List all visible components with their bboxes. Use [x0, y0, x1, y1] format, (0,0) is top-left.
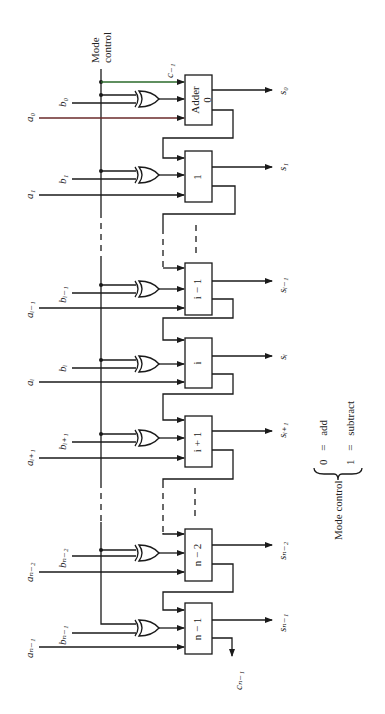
s-n-minus-1-label: sₙ₋₁ — [276, 613, 288, 632]
s-i-minus-1-label: sᵢ₋₁ — [276, 277, 288, 293]
svg-text:i − 1: i − 1 — [191, 279, 203, 299]
a0-label: a₀ — [23, 113, 35, 123]
b-i-minus-1-label: bᵢ₋₁ — [56, 286, 68, 303]
xor-gate-icon — [135, 620, 159, 636]
svg-text:i + 1: i + 1 — [191, 432, 203, 452]
stage-i-minus-1: i − 1 aᵢ₋₁ bᵢ₋₁ sᵢ₋₁ — [23, 263, 288, 340]
b-i-label: bᵢ — [56, 365, 68, 373]
svg-text:Adder: Adder — [189, 86, 201, 114]
xor-gate-icon — [135, 356, 159, 372]
svg-text:n − 1: n − 1 — [191, 618, 203, 641]
xor-gate-icon — [135, 167, 159, 183]
xor-gate-icon — [135, 545, 159, 561]
ellipsis-upper — [163, 225, 196, 268]
xor-gate-icon — [135, 91, 159, 107]
legend-title: Mode control — [332, 480, 344, 540]
a-n-minus-2-label: aₙ₋₂ — [23, 562, 35, 582]
legend-entry-add: 0 = add — [317, 419, 329, 465]
a-i-minus-1-label: aᵢ₋₁ — [23, 301, 35, 318]
svg-text:i: i — [191, 361, 203, 364]
b-n-minus-1-label: bₙ₋₁ — [56, 625, 68, 645]
b-i-plus-1-label: bᵢ₊₁ — [56, 433, 68, 450]
stage-1: 1 a₁ b₁ s₁ — [23, 151, 288, 228]
b-n-minus-2-label: bₙ₋₂ — [56, 548, 68, 568]
mode-control-label: Mode control — [89, 32, 113, 63]
legend-brace-icon — [314, 468, 362, 480]
s-i-label: sᵢ — [276, 354, 288, 360]
s-i-plus-1-label: sᵢ₊₁ — [276, 422, 288, 438]
s0-label: s₀ — [276, 87, 288, 95]
stage-n-minus-2: n − 2 aₙ₋₂ bₙ₋₂ sₙ₋₂ — [23, 529, 288, 610]
carry-out-label: cₙ₋₁ — [232, 671, 244, 690]
xor-gate-icon — [135, 281, 159, 297]
a-n-minus-1-label: aₙ₋₁ — [23, 638, 35, 658]
a1-label: a₁ — [23, 190, 35, 200]
mode-control-legend: 0 = add 1 = subtract Mode control — [314, 401, 362, 540]
mode-control-bus — [101, 69, 136, 624]
s1-label: s₁ — [276, 163, 288, 171]
stage-i-plus-1: i + 1 aᵢ₊₁ bᵢ₊₁ sᵢ₊₁ — [23, 416, 288, 482]
svg-text:n − 2: n − 2 — [191, 544, 203, 567]
ellipsis-lower — [163, 482, 195, 533]
a-i-plus-1-label: aᵢ₊₁ — [23, 449, 35, 466]
svg-text:Mode: Mode — [89, 37, 101, 63]
stage-0: Adder 0 a₀ b₀ s₀ — [23, 75, 288, 158]
xor-gate-icon — [135, 430, 159, 446]
carry-in-wire — [99, 80, 184, 84]
stage-n-minus-1: n − 1 aₙ₋₁ bₙ₋₁ sₙ₋₁ — [23, 603, 288, 658]
stage-i: i aᵢ bᵢ sᵢ — [23, 338, 288, 420]
carry-in-label: c₋₁ — [163, 63, 175, 78]
svg-text:control: control — [101, 32, 113, 63]
adder-subtractor-diagram: Mode control c₋₁ Adder 0 a₀ b₀ s₀ — [0, 0, 385, 714]
svg-text:0: 0 — [201, 97, 213, 103]
svg-text:1: 1 — [191, 174, 203, 180]
s-n-minus-2-label: sₙ₋₂ — [276, 541, 288, 560]
b0-label: b₀ — [56, 98, 68, 108]
b1-label: b₁ — [56, 175, 68, 185]
a-i-label: aᵢ — [23, 379, 35, 387]
legend-entry-subtract: 1 = subtract — [344, 401, 356, 465]
